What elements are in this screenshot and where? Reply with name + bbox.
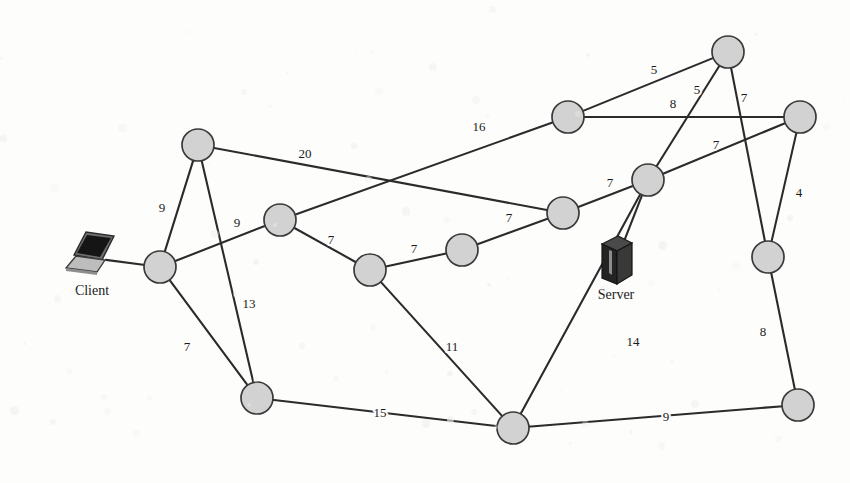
server-tower-icon[interactable] xyxy=(602,236,632,284)
edge-weight-label: 4 xyxy=(796,185,803,200)
edge-weight-label: 7 xyxy=(411,241,418,256)
edge-n2-n3 xyxy=(174,225,266,261)
router-node[interactable] xyxy=(712,36,744,68)
edge-weight-label: 9 xyxy=(159,200,166,215)
edge-n10-n11 xyxy=(662,123,786,175)
edge-weight-label: 13 xyxy=(243,296,256,311)
edge-n10-n12 xyxy=(771,132,796,243)
edge-weight-label: 7 xyxy=(713,137,720,152)
router-node[interactable] xyxy=(144,251,176,283)
router-node[interactable] xyxy=(264,204,296,236)
edge-weight-label: 5 xyxy=(694,82,701,97)
network-graph: 9913132020997777161677111177775588557777… xyxy=(0,0,850,483)
edge-n7-n11 xyxy=(577,185,634,207)
edge-weight-label: 20 xyxy=(299,146,312,161)
device-label-server: Server xyxy=(598,287,635,302)
edge-weight-label: 5 xyxy=(651,62,658,77)
edge-client-n2 xyxy=(106,260,145,265)
edge-weight-label: 8 xyxy=(670,96,677,111)
edge-weight-label: 9 xyxy=(663,409,670,424)
edge-n11-n13 xyxy=(520,193,641,415)
router-node[interactable] xyxy=(784,101,816,133)
edge-n1-n2 xyxy=(164,159,193,252)
edge-weight-label: 7 xyxy=(607,175,614,190)
edge-n5-n13 xyxy=(380,281,503,417)
edge-n1-n4 xyxy=(201,160,253,384)
router-node[interactable] xyxy=(182,129,214,161)
edge-n12-n14 xyxy=(771,272,795,391)
edge-weight-label: 7 xyxy=(506,210,513,225)
edge-weight-label: 7 xyxy=(328,232,335,247)
network-diagram-canvas: 9913132020997777161677111177775588557777… xyxy=(0,0,850,483)
edge-n1-n7 xyxy=(213,148,549,211)
router-node[interactable] xyxy=(354,254,386,286)
edge-n6-n7 xyxy=(476,218,549,245)
router-node[interactable] xyxy=(552,101,584,133)
router-node[interactable] xyxy=(752,241,784,273)
device-labels: ClientServer xyxy=(75,283,635,302)
edge-n9-n12 xyxy=(731,67,765,243)
router-node[interactable] xyxy=(241,382,273,414)
edge-n13-n14 xyxy=(528,406,783,427)
laptop-icon[interactable] xyxy=(66,232,114,275)
device-label-client: Client xyxy=(75,283,109,298)
edge-weight-label: 8 xyxy=(760,324,767,339)
edge-weight-label: 7 xyxy=(741,90,748,105)
edge-weight-label: 7 xyxy=(184,339,191,354)
edge-n3-n5 xyxy=(293,227,357,262)
edge-n2-n4 xyxy=(169,279,248,386)
router-node[interactable] xyxy=(547,197,579,229)
router-node[interactable] xyxy=(497,412,529,444)
router-node[interactable] xyxy=(632,164,664,196)
edge-weight-label: 14 xyxy=(627,334,641,349)
edge-weight-label: 11 xyxy=(446,339,459,354)
edge-n3-n8 xyxy=(294,122,554,215)
router-node[interactable] xyxy=(446,234,478,266)
edge-weight-label: 16 xyxy=(473,119,487,134)
router-node[interactable] xyxy=(782,389,814,421)
edge-weight-label: 9 xyxy=(234,215,241,230)
edge-weight-label: 15 xyxy=(374,405,387,420)
